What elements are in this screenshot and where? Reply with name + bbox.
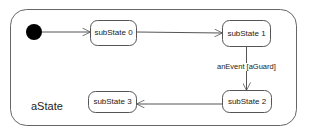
state-substate0-label: subState 0 <box>90 29 137 37</box>
initial-state-icon[interactable] <box>26 24 42 40</box>
composite-state-name: aState <box>31 101 63 112</box>
state-substate2-label: subState 2 <box>222 98 272 106</box>
state-substate1-label: subState 1 <box>222 30 271 38</box>
transition-label-anevent-aguard: anEvent [aGuard] <box>216 63 277 71</box>
state-substate3-label: subState 3 <box>88 98 137 106</box>
